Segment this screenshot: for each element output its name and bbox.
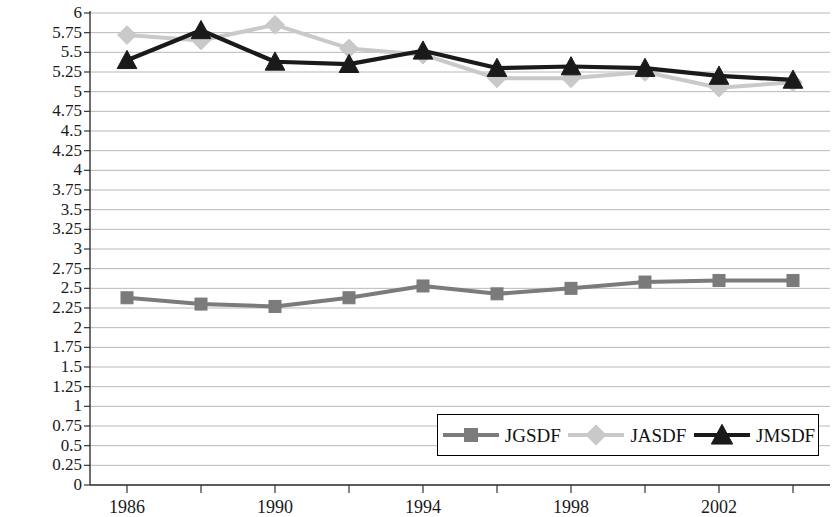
legend-label: JMSDF bbox=[756, 426, 815, 445]
x-axis-tick-label: 1986 bbox=[109, 498, 145, 516]
x-axis-tick-label: 1998 bbox=[553, 498, 589, 516]
legend-item-jgsdf: JGSDF bbox=[441, 424, 561, 446]
legend-label: JGSDF bbox=[505, 426, 561, 445]
legend-swatch-square-icon bbox=[441, 424, 501, 446]
legend-item-jasdf: JASDF bbox=[566, 424, 686, 446]
legend-label: JASDF bbox=[630, 426, 686, 445]
legend-swatch-diamond-icon bbox=[566, 424, 626, 446]
x-axis-tick-label: 1994 bbox=[405, 498, 441, 516]
x-axis-tick-label: 2002 bbox=[701, 498, 737, 516]
legend-swatch-triangle-icon bbox=[692, 424, 752, 446]
x-axis-tick-label: 1990 bbox=[257, 498, 293, 516]
data-point-marker-diamond bbox=[586, 425, 606, 445]
chart-legend: JGSDFJASDFJMSDF bbox=[437, 414, 819, 456]
data-point-marker-square bbox=[464, 429, 477, 442]
legend-item-jmsdf: JMSDF bbox=[692, 424, 815, 446]
